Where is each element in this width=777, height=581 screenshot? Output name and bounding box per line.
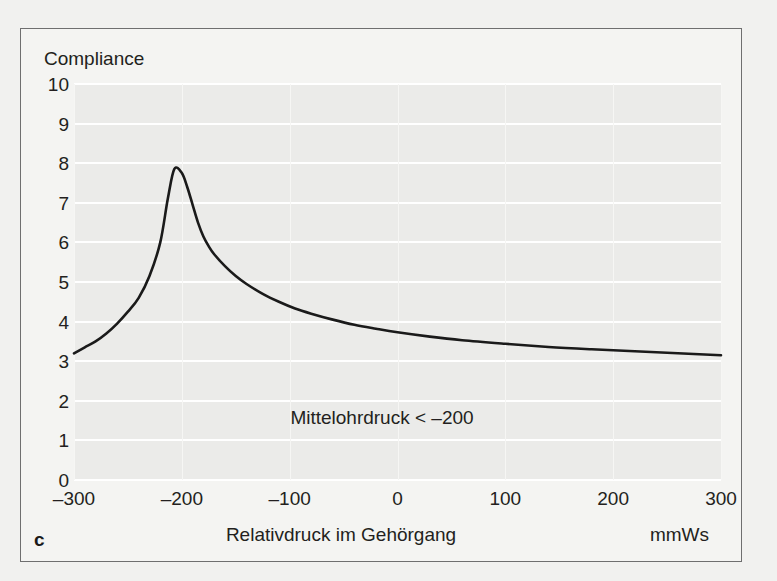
y-tick-label-3: 3	[35, 352, 69, 371]
y-tick-label-8: 8	[35, 154, 69, 173]
y-tick-label-1: 1	[35, 431, 69, 450]
x-axis-unit: mmWs	[650, 524, 709, 546]
y-axis-title: Compliance	[44, 48, 144, 70]
page-root: Compliance 109876543210 –300–200–1000100…	[0, 0, 777, 581]
y-tick-label-7: 7	[35, 194, 69, 213]
x-tick-label--100: –100	[245, 489, 335, 508]
x-axis-title: Relativdruck im Gehörgang	[21, 524, 661, 546]
x-tick-label-100: 100	[460, 489, 550, 508]
figure-frame: Compliance 109876543210 –300–200–1000100…	[20, 28, 742, 562]
y-tick-label-9: 9	[35, 115, 69, 134]
x-tick-label-0: 0	[353, 489, 443, 508]
x-tick-label--300: –300	[29, 489, 119, 508]
x-tick-label-300: 300	[676, 489, 766, 508]
y-tick-label-10: 10	[35, 75, 69, 94]
y-tick-label-6: 6	[35, 233, 69, 252]
y-tick-label-4: 4	[35, 313, 69, 332]
x-axis-ticks: –300–200–1000100200300	[74, 489, 721, 515]
y-tick-label-5: 5	[35, 273, 69, 292]
chart-annotation: Mittelohrdruck < –200	[21, 407, 743, 429]
x-tick-label-200: 200	[568, 489, 658, 508]
tympanogram-curve	[74, 168, 721, 356]
x-tick-label--200: –200	[137, 489, 227, 508]
panel-label: c	[34, 529, 45, 551]
